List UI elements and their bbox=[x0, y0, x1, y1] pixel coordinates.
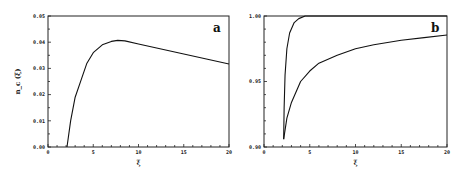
y-tick-label: 0.00 bbox=[33, 144, 45, 150]
series-lower bbox=[284, 35, 447, 139]
x-tick-label: 5 bbox=[92, 149, 95, 155]
panel-label-b: b bbox=[431, 21, 439, 35]
x-tick-label: 10 bbox=[352, 149, 358, 155]
figure: 051015200.000.010.020.030.040.05ξn_c (ξ)… bbox=[0, 0, 468, 173]
x-tick-label: 0 bbox=[46, 149, 49, 155]
y-tick-label: 1.00 bbox=[249, 13, 261, 19]
x-tick-label: 15 bbox=[398, 149, 404, 155]
y-tick-label: 0.02 bbox=[33, 91, 45, 97]
series-upper bbox=[284, 16, 447, 139]
x-tick-label: 0 bbox=[262, 149, 265, 155]
x-tick-label: 20 bbox=[226, 149, 232, 155]
series-curve bbox=[67, 40, 229, 147]
x-tick-label: 10 bbox=[135, 149, 141, 155]
x-axis-label: ξ bbox=[136, 158, 140, 167]
y-tick-label: 0.90 bbox=[249, 144, 261, 150]
x-tick-label: 20 bbox=[444, 149, 450, 155]
y-tick-label: 0.95 bbox=[249, 78, 261, 84]
plot-frame-b bbox=[264, 16, 447, 147]
plot-frame-a bbox=[48, 16, 229, 147]
y-tick-label: 0.01 bbox=[33, 118, 45, 124]
y-tick-label: 0.04 bbox=[33, 39, 45, 45]
x-axis-label: ξ bbox=[353, 158, 357, 167]
y-tick-label: 0.05 bbox=[33, 13, 45, 19]
y-axis-label: n_c (ξ) bbox=[13, 68, 22, 94]
x-tick-label: 15 bbox=[181, 149, 187, 155]
x-tick-label: 5 bbox=[308, 149, 311, 155]
y-tick-label: 0.03 bbox=[33, 65, 45, 71]
panel-label-a: a bbox=[213, 21, 221, 35]
